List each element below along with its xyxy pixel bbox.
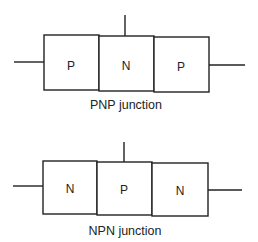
pnp-region-2-label: N (122, 59, 131, 73)
pnp-region-3-label: P (177, 60, 185, 74)
npn-region-1-label: N (66, 182, 75, 196)
npn-region-3-label: N (176, 184, 185, 198)
npn-region-2-label: P (120, 183, 128, 197)
npn-caption: NPN junction (89, 224, 162, 238)
junction-diagrams: P N P PNP junction N P N NPN junction (0, 0, 258, 242)
pnp-region-1-label: P (67, 59, 75, 73)
pnp-junction-diagram: P N P PNP junction (14, 15, 245, 112)
npn-junction-diagram: N P N NPN junction (13, 142, 242, 238)
pnp-caption: PNP junction (90, 98, 162, 112)
